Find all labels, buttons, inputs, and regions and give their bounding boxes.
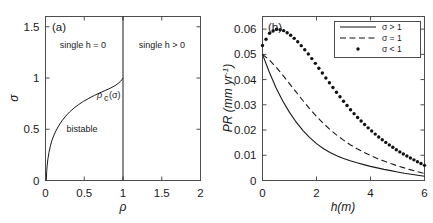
data-marker <box>261 44 264 47</box>
data-marker <box>300 44 303 47</box>
data-marker <box>359 119 362 122</box>
data-marker <box>352 112 355 115</box>
panel-a-y-tick-labels: 00.511.5 <box>24 21 40 187</box>
region-label-single-h-positive: single h > 0 <box>139 40 185 50</box>
y-tick-label: 0.5 <box>24 123 40 135</box>
panel-a-label: (a) <box>52 21 66 33</box>
data-marker <box>398 150 401 153</box>
region-label-single-h-zero: single h = 0 <box>60 40 106 50</box>
y-tick-label: 1.5 <box>24 21 40 33</box>
panel-a: 00.511.52 00.511.5 (a) single h = 0 sing… <box>0 0 215 223</box>
data-marker <box>321 71 324 74</box>
legend-label: σ = 1 <box>382 33 402 43</box>
data-marker <box>342 100 345 103</box>
y-tick-label: 1 <box>33 72 39 84</box>
data-marker <box>395 148 398 151</box>
y-tick-label: 0 <box>33 175 39 187</box>
data-marker <box>391 146 394 149</box>
data-marker <box>292 37 295 40</box>
y-tick-label: 0 <box>250 175 256 187</box>
curve-label-rho-c: ρ c (σ) <box>96 90 121 103</box>
data-marker <box>303 48 306 51</box>
panel-a-x-axis-title: ρ <box>119 200 127 214</box>
y-tick-label: 0.02 <box>234 124 256 136</box>
x-tick-label: 2 <box>313 187 319 199</box>
data-marker <box>381 138 384 141</box>
x-tick-label: 0 <box>259 187 265 199</box>
data-marker <box>409 156 412 159</box>
data-curve <box>263 54 425 173</box>
legend-box: σ > 1σ = 1σ < 1 <box>335 22 421 58</box>
x-tick-label: 4 <box>367 187 374 199</box>
data-marker <box>423 164 426 167</box>
data-marker <box>402 152 405 155</box>
x-tick-label: 0.5 <box>76 187 92 199</box>
data-marker <box>363 123 366 126</box>
x-tick-label: 6 <box>421 187 427 199</box>
data-marker <box>328 81 331 84</box>
curve-label-sigma-arg: (σ) <box>109 90 121 100</box>
data-marker <box>419 162 422 165</box>
data-marker <box>310 57 313 60</box>
data-marker <box>307 52 310 55</box>
data-marker <box>282 29 285 32</box>
data-marker <box>345 104 348 107</box>
svg-text:PR (mm yr-1): PR (mm yr-1) <box>221 64 235 132</box>
panel-a-svg: 00.511.52 00.511.5 (a) single h = 0 sing… <box>0 0 215 223</box>
panel-b: 0246 00.010.020.030.040.050.06 (b) σ > 1… <box>215 0 433 223</box>
data-marker <box>405 154 408 157</box>
data-marker <box>338 95 341 98</box>
x-tick-label: 1 <box>120 187 126 199</box>
data-marker <box>377 135 380 138</box>
data-marker <box>314 62 317 65</box>
panel-b-y-axis-title: PR (mm yr-1) <box>221 64 235 132</box>
panel-b-y-tick-labels: 00.010.020.030.040.050.06 <box>234 23 257 186</box>
data-marker <box>388 143 391 146</box>
y-tick-label: 0.04 <box>234 74 257 86</box>
panel-a-y-axis-title: σ <box>7 94 21 102</box>
x-tick-label: 0 <box>42 187 48 199</box>
data-marker <box>366 126 369 129</box>
y-tick-label: 0.03 <box>234 99 256 111</box>
y-tick-label: 0.06 <box>234 23 256 35</box>
panel-b-x-axis-title: h(m) <box>331 200 356 214</box>
panel-b-x-tick-labels: 0246 <box>259 187 427 199</box>
y-axis-title-main: PR (mm yr <box>221 74 235 132</box>
legend-label: σ > 1 <box>382 22 402 32</box>
panel-b-svg: 0246 00.010.020.030.040.050.06 (b) σ > 1… <box>215 0 433 223</box>
data-marker <box>335 91 338 94</box>
x-tick-label: 1.5 <box>154 187 170 199</box>
figure-container: 00.511.52 00.511.5 (a) single h = 0 sing… <box>0 0 433 223</box>
data-curve <box>263 54 425 176</box>
data-marker <box>412 158 415 161</box>
data-marker <box>285 31 288 34</box>
data-marker <box>370 129 373 132</box>
data-marker <box>384 141 387 144</box>
data-marker <box>264 37 267 40</box>
data-marker <box>356 116 359 119</box>
data-marker <box>296 40 299 43</box>
data-marker <box>317 66 320 69</box>
y-axis-title-exponent: -1 <box>221 68 230 75</box>
panel-b-label: (b) <box>268 21 282 33</box>
data-marker <box>349 108 352 111</box>
data-marker <box>289 34 292 37</box>
curve-label-rho: ρ <box>96 90 102 100</box>
legend-sample-dotted <box>356 47 359 50</box>
region-label-bistable: bistable <box>66 124 97 134</box>
legend-label: σ < 1 <box>382 44 402 54</box>
data-marker <box>373 132 376 135</box>
x-tick-label: 2 <box>197 187 203 199</box>
data-marker <box>331 86 334 89</box>
data-marker <box>324 76 327 79</box>
y-tick-label: 0.01 <box>234 149 256 161</box>
y-tick-label: 0.05 <box>234 48 256 60</box>
data-marker <box>416 160 419 163</box>
panel-a-x-tick-labels: 00.511.52 <box>42 187 203 199</box>
